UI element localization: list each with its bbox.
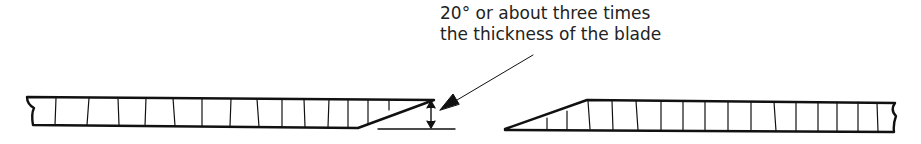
scarf-joint-diagram [0, 0, 921, 144]
left-blade [27, 97, 434, 128]
leader-arrow [440, 55, 533, 110]
right-blade [505, 100, 896, 132]
